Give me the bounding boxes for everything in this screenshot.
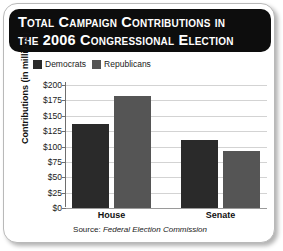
y-axis-tick-label: $75 — [28, 157, 62, 167]
y-axis-tick-label: $200 — [28, 80, 62, 90]
x-axis-label-house: House — [98, 210, 126, 220]
y-axis-tick-label: $50 — [28, 172, 62, 182]
bar-house-democrats — [72, 124, 109, 208]
source-prefix: Source: — [73, 225, 103, 234]
x-axis-label-senate: Senate — [206, 210, 236, 220]
y-axis-tick-label: $100 — [28, 142, 62, 152]
y-axis-tick-labels: $0$25$50$75$100$125$150$175$200 — [24, 4, 62, 243]
bar-series-container — [66, 4, 267, 207]
source-note: Source: Federal Election Commission — [4, 225, 275, 234]
plot-area: Contributions (in millions) $0$25$50$75$… — [4, 4, 275, 243]
y-axis-tick-label: $25 — [28, 188, 62, 198]
chart-card: Total Campaign Contributions in the 2006… — [3, 3, 275, 243]
gridline — [65, 208, 267, 209]
y-axis-tick — [62, 208, 66, 209]
y-axis-tick-label: $0 — [28, 203, 62, 213]
bar-senate-democrats — [181, 140, 218, 208]
y-axis-tick-label: $175 — [28, 95, 62, 105]
bar-house-republicans — [114, 96, 151, 208]
bar-senate-republicans — [223, 151, 260, 208]
y-axis-tick-label: $150 — [28, 111, 62, 121]
y-axis-tick-label: $125 — [28, 126, 62, 136]
source-name: Federal Election Commission — [103, 225, 207, 234]
